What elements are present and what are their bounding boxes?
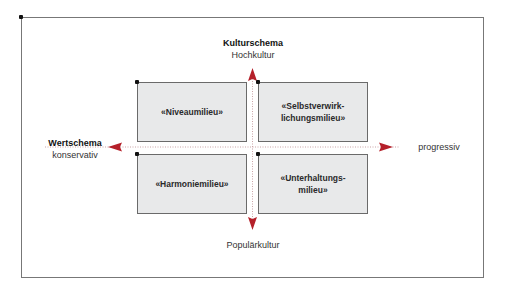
arrow-right-icon (379, 143, 393, 152)
quadrant-niveaumilieu: «Niveaumilieu» (137, 82, 247, 142)
box-corner-dot (135, 80, 139, 84)
quadrant-harmoniemilieu: «Harmoniemilieu» (137, 154, 247, 214)
quadrant-selbstverwirklichungsmilieu: «Selbstverwirk- lichungsmilieu» (258, 82, 368, 142)
konservativ-label: konservativ (52, 150, 98, 160)
quadrant-label: «Selbstverwirk- lichungsmilieu» (281, 100, 345, 124)
progressiv-label: progressiv (418, 142, 460, 152)
horizontal-axis-left-label: Wertschema konservativ (36, 137, 114, 161)
box-corner-dot (256, 80, 260, 84)
quadrant-unterhaltungsmilieu: «Unterhaltungs- milieu» (258, 154, 368, 214)
vertical-axis-top-label: Kulturschema Hochkultur (212, 37, 294, 61)
quadrant-label: «Harmoniemilieu» (155, 178, 228, 190)
horizontal-axis-right-label: progressiv (404, 141, 474, 153)
wertschema-title: Wertschema (36, 137, 114, 149)
quadrant-label: «Niveaumilieu» (161, 106, 223, 118)
popularkultur-label: Populärkultur (226, 240, 279, 250)
vertical-axis-bottom-label: Populärkultur (212, 239, 294, 251)
kulturschema-title: Kulturschema (212, 37, 294, 49)
quadrant-label: «Unterhaltungs- milieu» (280, 172, 345, 196)
box-corner-dot (135, 152, 139, 156)
box-corner-dot (256, 152, 260, 156)
hochkultur-label: Hochkultur (231, 50, 274, 60)
